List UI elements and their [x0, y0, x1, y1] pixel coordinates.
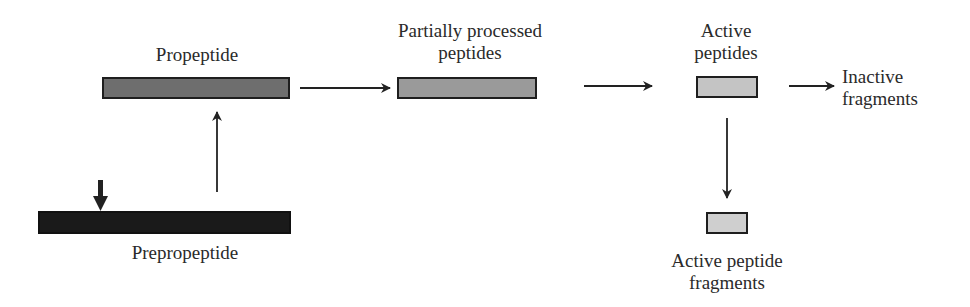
- cleavage-site-down-arrow-icon: [93, 180, 108, 211]
- arrows-layer: [0, 0, 970, 307]
